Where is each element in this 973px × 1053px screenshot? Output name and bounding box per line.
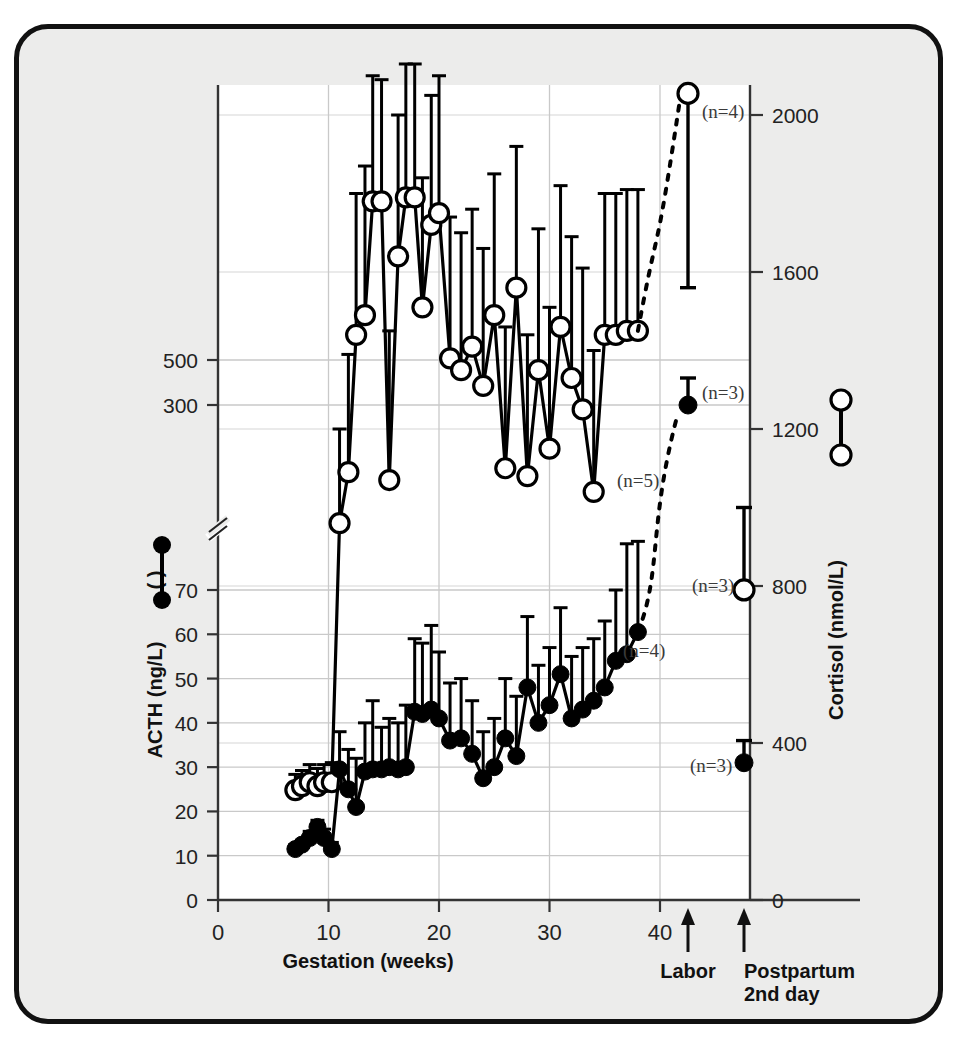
data-point-open xyxy=(573,400,592,419)
left-tick-label: 50 xyxy=(175,668,198,691)
data-point-filled xyxy=(331,761,348,778)
left-tick-label: 60 xyxy=(175,623,198,646)
data-point-open xyxy=(413,298,432,317)
data-point-filled xyxy=(530,714,547,731)
x-tick-label: 30 xyxy=(537,920,561,945)
right-tick-label: 1200 xyxy=(772,418,819,441)
labor-acth-point xyxy=(679,396,697,414)
left-axis-title: ACTH (ng/L) xyxy=(144,642,166,759)
data-point-open xyxy=(347,325,366,344)
annotation-inline-acth: (n=4) xyxy=(623,640,665,662)
data-point-filled xyxy=(397,759,414,776)
data-point-filled xyxy=(541,697,558,714)
data-point-filled xyxy=(486,759,503,776)
data-point-open xyxy=(540,439,559,458)
data-point-filled xyxy=(508,748,525,765)
data-point-open xyxy=(355,306,374,325)
x-tick-label: 40 xyxy=(648,920,672,945)
data-point-open xyxy=(405,188,424,207)
data-point-filled xyxy=(552,666,569,683)
data-point-open xyxy=(372,192,391,211)
data-point-open xyxy=(430,204,449,223)
right-tick-label: 1600 xyxy=(772,261,819,284)
data-point-filled xyxy=(596,679,613,696)
x-tick-label: 0 xyxy=(212,920,224,945)
data-point-open xyxy=(463,337,482,356)
data-point-open xyxy=(474,376,493,395)
left-tick-label: 500 xyxy=(163,349,198,372)
postpartum-label-line1: Postpartum xyxy=(744,960,855,982)
labor-label: Labor xyxy=(660,960,716,982)
annotation-postpartum-cortisol: (n=3) xyxy=(692,575,734,597)
labor-cortisol-point xyxy=(678,83,698,103)
data-point-filled xyxy=(340,781,357,798)
postpartum-cortisol-point xyxy=(734,580,754,600)
data-point-open xyxy=(389,247,408,266)
left-axis-title-group: ACTH (ng/L) ( ) xyxy=(144,536,171,758)
data-point-open xyxy=(584,482,603,501)
right-tick-label: 800 xyxy=(772,575,807,598)
right-tick-label: 400 xyxy=(772,732,807,755)
data-point-open xyxy=(529,361,548,380)
data-point-open xyxy=(518,467,537,486)
x-axis-ticks: 010203040 xyxy=(212,900,672,945)
data-point-open xyxy=(485,306,504,325)
data-point-filled xyxy=(519,679,536,696)
data-point-filled xyxy=(323,841,340,858)
data-point-filled xyxy=(497,730,514,747)
data-point-open xyxy=(507,278,526,297)
right-axis-title-group: Cortisol (nmol/L) xyxy=(825,390,851,720)
data-point-filled xyxy=(453,730,470,747)
annotation-postpartum-acth: (n=3) xyxy=(690,755,732,777)
left-tick-label: 40 xyxy=(175,712,198,735)
left-tick-label: 0 xyxy=(186,889,198,912)
annotation-labor-cortisol: (n=4) xyxy=(702,101,744,123)
data-point-open xyxy=(562,368,581,387)
chart-figure: 010203040506070300500 040080012001600200… xyxy=(0,0,973,1053)
data-point-open xyxy=(339,463,358,482)
data-point-open xyxy=(380,471,399,490)
x-axis-title: Gestation (weeks) xyxy=(282,950,453,972)
left-tick-label: 20 xyxy=(175,800,198,823)
right-tick-label: 2000 xyxy=(772,104,819,127)
right-axis-ticks: 0400800120016002000 xyxy=(750,104,819,912)
data-point-filled xyxy=(348,799,365,816)
annotation-inline-cortisol: (n=5) xyxy=(617,470,659,492)
left-tick-label: 70 xyxy=(175,579,198,602)
postpartum-acth-point xyxy=(735,754,753,772)
x-tick-label: 10 xyxy=(316,920,340,945)
data-point-filled xyxy=(464,745,481,762)
annotation-labor-acth: (n=3) xyxy=(702,382,744,404)
data-point-filled xyxy=(431,710,448,727)
right-tick-label: 0 xyxy=(772,889,784,912)
data-point-open xyxy=(551,317,570,336)
left-tick-label: 30 xyxy=(175,756,198,779)
data-point-open xyxy=(452,361,471,380)
cortisol-legend-symbol xyxy=(831,390,851,465)
postpartum-label-line2: 2nd day xyxy=(744,983,820,1005)
left-tick-label: 300 xyxy=(163,394,198,417)
right-axis-title: Cortisol (nmol/L) xyxy=(825,560,847,720)
postpartum-event-marker: Postpartum 2nd day xyxy=(737,908,855,1005)
x-tick-label: 20 xyxy=(427,920,451,945)
data-point-open xyxy=(496,459,515,478)
left-tick-label: 10 xyxy=(175,845,198,868)
data-point-open xyxy=(330,514,349,533)
left-axis-ticks: 010203040506070300500 xyxy=(163,349,218,912)
